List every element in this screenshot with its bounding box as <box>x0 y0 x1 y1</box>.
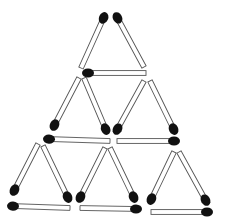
matchstick-head <box>130 204 142 213</box>
matchstick-group <box>7 10 213 216</box>
matchstick-body <box>82 77 108 129</box>
matchstick[interactable] <box>74 146 109 205</box>
matchstick-body <box>117 139 173 144</box>
matchstick[interactable] <box>7 201 70 212</box>
matchstick-head <box>7 201 19 211</box>
matchstick-puzzle <box>0 0 228 224</box>
matchstick-body <box>116 18 146 69</box>
matchstick[interactable] <box>80 76 112 136</box>
matchstick[interactable] <box>117 136 180 145</box>
matchstick-head <box>201 207 213 216</box>
matchstick-body <box>14 204 70 211</box>
matchstick-body <box>80 206 135 212</box>
matchstick[interactable] <box>80 203 142 213</box>
matchstick-head <box>168 136 180 145</box>
matchstick[interactable] <box>111 10 148 69</box>
matchstick-body <box>79 18 106 69</box>
matchstick[interactable] <box>77 11 110 70</box>
matchstick[interactable] <box>43 134 110 145</box>
matchstick[interactable] <box>82 68 146 77</box>
matchstick-body <box>150 151 176 199</box>
matchstick-body <box>53 77 81 125</box>
matchstick[interactable] <box>175 150 212 208</box>
matchstick-body <box>108 147 135 197</box>
matchstick[interactable] <box>146 79 180 137</box>
matchstick[interactable] <box>151 207 213 216</box>
matchstick[interactable] <box>48 76 83 133</box>
matchstick-body <box>116 80 146 130</box>
matchstick-body <box>151 210 206 215</box>
matchstick[interactable] <box>111 79 148 137</box>
matchstick-body <box>148 80 175 129</box>
matchstick[interactable] <box>145 150 178 206</box>
matchstick-head <box>82 68 94 77</box>
matchstick-body <box>41 145 69 197</box>
matchstick[interactable] <box>106 146 140 204</box>
matchstick-head <box>43 134 55 144</box>
matchstick-body <box>89 71 146 76</box>
matchstick-body <box>13 143 40 190</box>
matchstick[interactable] <box>8 142 42 198</box>
matchstick-body <box>177 151 207 201</box>
matchstick[interactable] <box>39 144 74 204</box>
matchstick-body <box>50 137 110 144</box>
matchstick-body <box>79 147 107 197</box>
